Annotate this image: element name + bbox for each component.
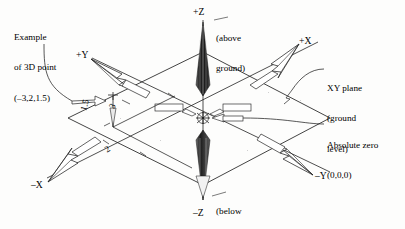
axis-label-positive-x: +X xyxy=(299,35,311,46)
callout-above-line1: (above xyxy=(216,33,245,43)
axis-label-negative-z: –Z xyxy=(193,207,204,218)
callout-absolute-zero: Absolute zero (0,0,0) xyxy=(327,119,378,201)
callout-zero-line1: Absolute zero xyxy=(327,140,378,150)
scan-speck xyxy=(268,92,269,93)
callout-zero-line2: (0,0,0) xyxy=(327,170,378,180)
axis-label-positive-y: +Y xyxy=(76,49,88,60)
callout-example-line1: Example xyxy=(14,32,56,42)
callout-below-ground: (below ground) xyxy=(216,185,245,229)
origin-marker xyxy=(196,112,210,124)
scan-speck xyxy=(120,118,121,119)
axis-label-positive-z: +Z xyxy=(193,6,204,17)
positive-x-arrow xyxy=(250,44,299,89)
callout-below-line1: (below xyxy=(216,206,245,216)
diagram-canvas: Example of 3D point (–3,2,1.5) XY plane … xyxy=(0,0,405,229)
callout-example-line2: of 3D point xyxy=(14,62,56,72)
axis-label-negative-y: –Y xyxy=(315,170,327,181)
scan-speck xyxy=(160,140,161,141)
scan-speck xyxy=(300,100,301,101)
scan-speck xyxy=(247,150,248,151)
callout-above-line2: ground) xyxy=(216,63,245,73)
callout-example-point: Example of 3D point (–3,2,1.5) xyxy=(14,11,56,124)
callout-example-line3: (–3,2,1.5) xyxy=(14,93,56,103)
axis-label-negative-x: –X xyxy=(31,179,43,190)
callout-above-ground: (above ground) xyxy=(216,12,245,94)
callout-xyplane-line1: XY plane xyxy=(327,83,362,93)
negative-x-arrow xyxy=(48,137,101,182)
xy-plane-leader-line xyxy=(284,69,324,104)
